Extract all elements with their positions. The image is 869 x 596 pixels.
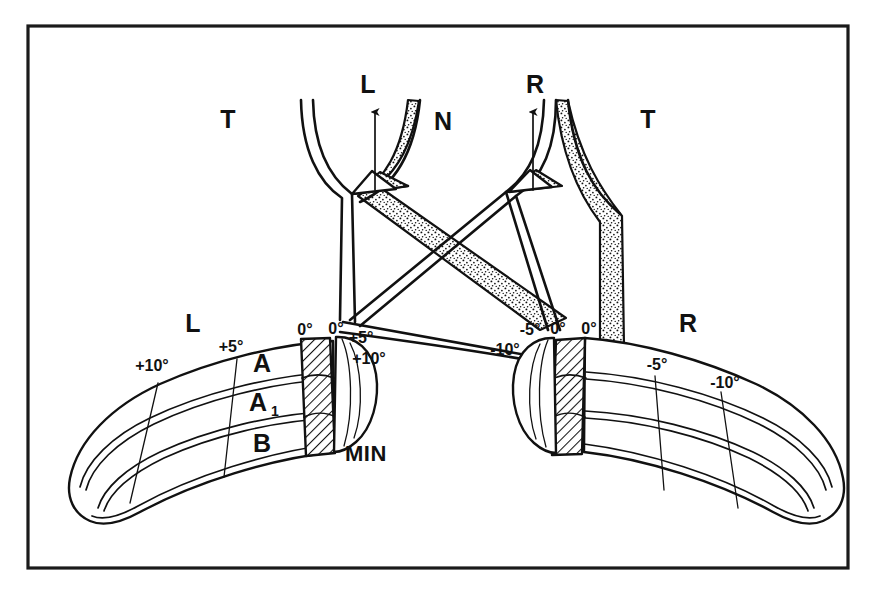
right-deg-label-5: -10° bbox=[710, 374, 740, 391]
label-nasal-N: N bbox=[434, 107, 452, 135]
left-deg-label-3: 0° bbox=[328, 320, 343, 337]
left-temporal-fiber-outer bbox=[301, 100, 342, 320]
right-retina-body bbox=[584, 338, 844, 524]
left-band-label-A: A bbox=[253, 349, 271, 377]
label-chiasm-L: L bbox=[360, 70, 375, 98]
left-temporal-fiber-inner bbox=[313, 100, 355, 322]
left-min-label: MIN bbox=[345, 441, 387, 466]
right-chiasm-apex-light bbox=[509, 170, 552, 192]
right-hatched-zone bbox=[552, 338, 585, 455]
right-deg-label-4: -5° bbox=[647, 356, 668, 373]
left-band-label-A1-main: A bbox=[249, 388, 267, 416]
label-chiasm-R: R bbox=[526, 70, 544, 98]
figure-root: L R N T T A A 1 B L bbox=[0, 0, 869, 596]
right-deg-label-1: 0° bbox=[550, 320, 565, 337]
left-deg-label-5: +10° bbox=[352, 350, 386, 367]
optic-chiasm-diagram: L R N T T A A 1 B L bbox=[0, 0, 869, 596]
left-deg-label-1: +5° bbox=[219, 338, 244, 355]
right-retina-group: R -5° 0° 0° -10° -5° -10° bbox=[490, 309, 844, 524]
right-deg-label-2: 0° bbox=[581, 320, 596, 337]
left-deg-label-4: +5° bbox=[349, 329, 374, 346]
left-deg-label-2: 0° bbox=[297, 321, 312, 338]
left-retina-group: A A 1 B L MIN +10° +5° 0° 0° +5° +10° bbox=[69, 309, 387, 524]
right-deg-label-0: -5° bbox=[520, 321, 541, 338]
left-band-label-A1-subscript: 1 bbox=[271, 403, 279, 419]
left-retina-body bbox=[69, 341, 334, 524]
label-temporal-left-T: T bbox=[220, 105, 235, 133]
right-uncrossed-band-upper bbox=[350, 192, 506, 320]
right-deg-label-3: -10° bbox=[490, 341, 520, 358]
right-retina-side-label: R bbox=[679, 309, 697, 337]
label-temporal-right-T: T bbox=[640, 105, 655, 133]
left-hatched-zone bbox=[301, 338, 335, 456]
left-deg-label-0: +10° bbox=[135, 357, 169, 374]
left-band-label-B: B bbox=[253, 429, 271, 457]
left-nasal-decussating-band bbox=[358, 100, 566, 330]
left-retina-side-label: L bbox=[185, 309, 200, 337]
